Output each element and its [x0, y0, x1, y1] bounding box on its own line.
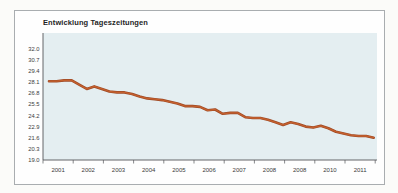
y-tick-label: 29.4	[28, 68, 40, 74]
plot-area	[43, 33, 377, 160]
y-tick-label: 19.0	[28, 157, 39, 163]
y-tick-label: 21.6	[28, 135, 39, 141]
x-tick-label: 2011	[354, 167, 368, 173]
y-tick-label: 22.9	[28, 124, 39, 130]
x-tick-label: 2010	[323, 167, 337, 173]
y-tick-label: 28.1	[28, 79, 39, 85]
y-tick-label: 24.2	[28, 113, 39, 119]
y-tick-label: 32.0	[28, 46, 39, 52]
x-tick-label: 2007	[233, 167, 247, 173]
page-background: { "page": { "background": "#fbfbf9" }, "…	[0, 0, 398, 193]
x-tick-label: 2004	[142, 167, 156, 173]
line-chart: 2001200220032004200520062007200820082010…	[15, 11, 386, 186]
x-tick-label: 2003	[112, 167, 126, 173]
y-tick-label: 30.7	[28, 57, 39, 63]
chart-panel: Entwicklung Tageszeitungen 2001200220032…	[14, 10, 385, 185]
y-tick-label: 25.5	[28, 101, 39, 107]
x-tick-label: 2002	[82, 167, 96, 173]
x-tick-label: 2006	[202, 167, 216, 173]
x-tick-label: 2005	[172, 167, 186, 173]
x-tick-label: 2001	[51, 167, 65, 173]
y-tick-label: 26.8	[28, 90, 39, 96]
y-tick-label: 20.3	[28, 146, 39, 152]
x-tick-label: 2008	[263, 167, 277, 173]
x-tick-label: 2008	[293, 167, 307, 173]
